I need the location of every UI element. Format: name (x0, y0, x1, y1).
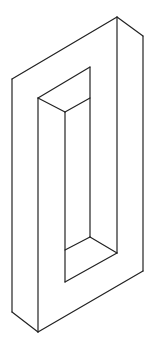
inner-bottom-bevel-right (90, 237, 117, 253)
outer-bottom-edge (38, 271, 143, 332)
outer-top-right-edge (117, 17, 143, 36)
inner-top-bevel-right (65, 98, 90, 112)
inner-top-bevel (38, 98, 65, 112)
inner-bottom-bevel (65, 237, 90, 250)
inner-bottom-edge (65, 253, 117, 282)
impossible-frame-drawing (0, 0, 148, 345)
outer-top-left-edge (12, 17, 117, 79)
inner-top-edge (38, 67, 90, 98)
outer-bottom-left-edge (12, 312, 38, 332)
